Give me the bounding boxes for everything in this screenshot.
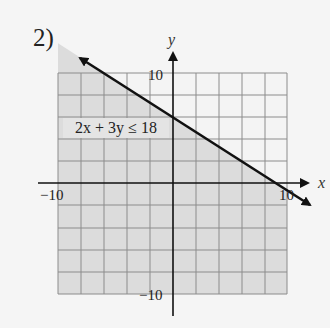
y-max-label: 10 [148,67,163,83]
y-min-label: −10 [139,287,162,303]
y-axis-label: y [166,31,176,49]
inequality-label: 2x + 3y ≤ 18 [63,118,169,138]
x-axis-label: x [317,174,325,191]
x-max-label: 10 [279,187,294,203]
inequality-graph: x y 10 −10 10 −10 [0,0,330,328]
x-min-label: −10 [40,187,63,203]
